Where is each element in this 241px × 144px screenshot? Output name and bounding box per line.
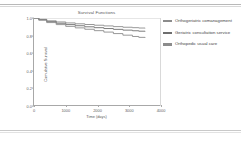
bottom-divider-rule-secondary [0, 132, 241, 133]
legend-item-label: Orthogeriatric comanagement [175, 18, 232, 23]
x-tick-label: 2000 [93, 108, 102, 113]
x-tick-mark [34, 105, 35, 107]
legend-item-label: Geriatric consultation service [175, 30, 230, 35]
x-tick-label: 1000 [61, 108, 70, 113]
x-tick-label: 0 [33, 108, 35, 113]
legend-item-1[interactable]: Orthogeriatric comanagement [163, 18, 241, 23]
top-divider-rule [0, 4, 241, 5]
y-tick-label: 0.0 [27, 104, 32, 109]
y-tick-label: 0.8 [27, 33, 32, 38]
y-tick-mark [32, 88, 34, 89]
y-axis-label: Cumulative Survival [43, 35, 48, 95]
survival-curves [34, 18, 161, 106]
legend-swatch-line [163, 32, 172, 34]
legend-swatch-line [163, 43, 172, 45]
x-tick-label: 3000 [125, 108, 134, 113]
plot-area: Cumulative Survival 1.00.80.60.40.20.0 0… [33, 18, 160, 106]
y-tick-label: 0.4 [27, 68, 32, 73]
x-tick-mark [161, 105, 162, 107]
x-tick-mark [66, 105, 67, 107]
x-tick-mark [129, 105, 130, 107]
legend-item-3[interactable]: Orthopedic usual care [163, 41, 241, 46]
y-tick-label: 0.6 [27, 51, 32, 56]
y-tick-mark [32, 35, 34, 36]
legend-item-2[interactable]: Geriatric consultation service [163, 30, 241, 35]
legend-item-label: Orthopedic usual care [175, 41, 217, 46]
x-tick-label: 4000 [157, 108, 166, 113]
legend-swatch-line [163, 20, 172, 22]
chart-title: Survival Functions [33, 10, 160, 15]
chart-legend: Orthogeriatric comanagementGeriatric con… [163, 18, 241, 53]
y-tick-mark [32, 53, 34, 54]
x-tick-mark [98, 105, 99, 107]
y-tick-label: 1.0 [27, 16, 32, 21]
survival-chart-figure: Survival Functions Cumulative Survival 1… [0, 7, 241, 129]
x-axis-label: Time (days) [33, 114, 160, 119]
y-tick-mark [32, 70, 34, 71]
y-tick-label: 0.2 [27, 86, 32, 91]
y-tick-mark [32, 18, 34, 19]
bottom-divider-rule [0, 130, 241, 131]
